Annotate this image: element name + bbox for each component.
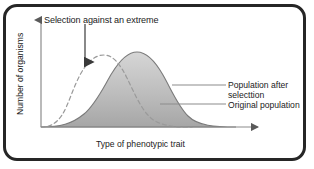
legend-label-original-population: Original population	[228, 101, 302, 111]
selection-annotation-label: Selection against an extreme	[44, 15, 158, 25]
x-axis-label: Type of phenotypic trait	[96, 140, 185, 150]
legend-label-after-selection: Population after selecttion	[228, 81, 302, 100]
curve-after-selection-fill	[41, 52, 236, 127]
y-axis-label: Number of organisms	[16, 26, 26, 122]
selection-diagram-figure: Selection against an extreme Number of o…	[0, 0, 314, 169]
